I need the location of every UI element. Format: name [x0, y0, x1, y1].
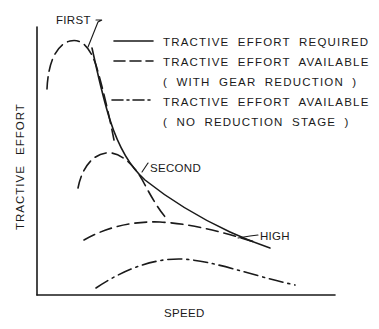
- annotation-high: HIGH: [260, 230, 290, 242]
- tractive-effort-chart: TRACTIVE EFFORT REQUIRED TRACTIVE EFFORT…: [0, 0, 379, 329]
- legend-required-label: TRACTIVE EFFORT REQUIRED: [163, 36, 369, 48]
- legend-direct-sublabel: ( NO REDUCTION STAGE ): [163, 116, 350, 128]
- x-axis-label: SPEED: [164, 307, 205, 319]
- first-gear-curve: [47, 40, 114, 140]
- annotation-first: FIRST: [56, 14, 91, 26]
- annotation-second: SECOND: [150, 162, 201, 174]
- legend-direct-label: TRACTIVE EFFORT AVAILABLE: [163, 96, 370, 108]
- legend-geared-label: TRACTIVE EFFORT AVAILABLE: [163, 56, 370, 68]
- second-leader: [142, 163, 148, 172]
- direct-drive-curve: [96, 259, 295, 288]
- legend-geared-sublabel: ( WITH GEAR REDUCTION ): [163, 76, 357, 88]
- y-axis-label: TRACTIVE EFFORT: [14, 103, 26, 230]
